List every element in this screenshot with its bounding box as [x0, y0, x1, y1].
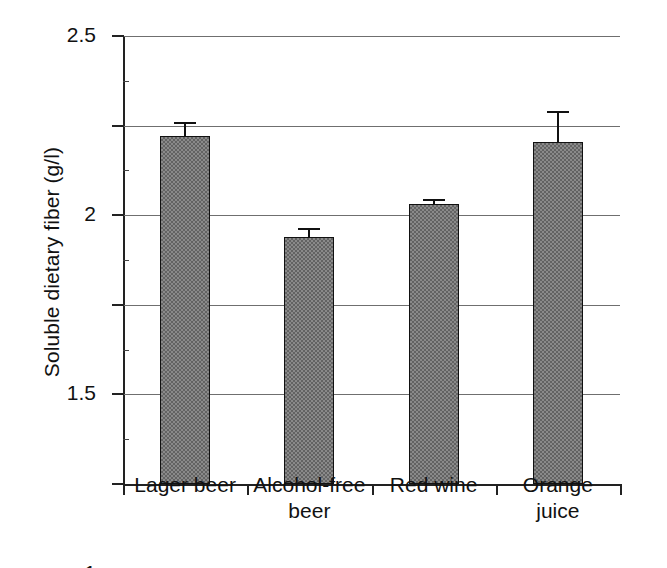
x-tick-label-line: Orange — [496, 472, 620, 498]
y-minor-tick — [123, 439, 129, 440]
error-bar-cap — [423, 199, 445, 201]
y-tick-label: 1 — [84, 561, 96, 568]
y-tick-mark: 0.5 — [112, 393, 124, 395]
x-tick-label: Orangejuice — [496, 472, 620, 524]
error-bar-cap — [547, 111, 569, 113]
gridline — [123, 36, 620, 37]
bar — [533, 142, 583, 484]
error-bar-cap — [174, 122, 196, 124]
y-tick-mark: 1.5 — [112, 214, 124, 216]
x-tick-label-line: Lager beer — [123, 472, 247, 498]
x-axis-end-tick — [620, 484, 622, 495]
x-tick-label-line: juice — [496, 498, 620, 524]
bar — [284, 237, 334, 484]
y-tick-mark: 2.5 — [112, 35, 124, 37]
x-tick-label-line: Alcohol-free — [247, 472, 371, 498]
error-bar-cap — [298, 228, 320, 230]
y-tick-label: 2 — [84, 202, 96, 226]
error-bar-stem — [184, 122, 186, 136]
plot-area: 00.511.522.5 — [123, 36, 620, 484]
x-tick-label: Alcohol-freebeer — [247, 472, 371, 524]
x-tick-label-line: beer — [247, 498, 371, 524]
y-minor-tick — [123, 260, 129, 261]
y-axis-title: Soluble dietary fiber (g/l) — [40, 102, 64, 422]
y-tick-label: 2.5 — [67, 23, 96, 47]
chart-figure: Soluble dietary fiber (g/l) 00.511.522.5… — [0, 0, 667, 568]
y-tick-mark: 2 — [112, 125, 124, 127]
x-tick-label: Red wine — [372, 472, 496, 498]
y-minor-tick — [123, 81, 129, 82]
bar — [160, 136, 210, 484]
x-tick-label: Lager beer — [123, 472, 247, 498]
bar — [409, 204, 459, 484]
y-tick-mark: 1 — [112, 304, 124, 306]
y-minor-tick — [123, 350, 129, 351]
x-tick-label-line: Red wine — [372, 472, 496, 498]
error-bar-stem — [557, 111, 559, 141]
gridline — [123, 126, 620, 127]
y-minor-tick — [123, 170, 129, 171]
y-tick-label: 1.5 — [67, 381, 96, 405]
